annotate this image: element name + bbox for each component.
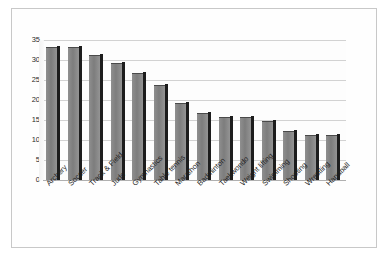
y-tick-label-30: 30: [18, 56, 40, 64]
y-axis: 05101520253035: [10, 0, 40, 262]
bar-soccer: [68, 47, 79, 180]
bar-side-face: [122, 62, 125, 180]
y-tick-label-0: 0: [18, 176, 40, 184]
bar-track-field: [89, 55, 100, 180]
bar-side-face: [79, 46, 82, 180]
bar-slot: [324, 40, 346, 180]
x-axis-labels: ArcherySoccerTrack & FieldJudoGymnastics…: [44, 182, 354, 252]
y-tick-label-15: 15: [18, 116, 40, 124]
bar-slot: [130, 40, 152, 180]
y-tick-label-35: 35: [18, 36, 40, 44]
bar-archery: [46, 47, 57, 180]
y-tick-label-5: 5: [18, 156, 40, 164]
bar-side-face: [57, 46, 60, 180]
bar-slot: [44, 40, 66, 180]
bar-gymnastics: [132, 73, 143, 180]
y-tick-label-20: 20: [18, 96, 40, 104]
bar-side-face: [100, 54, 103, 180]
bar-slot: [66, 40, 88, 180]
chart-canvas: 05101520253035 ArcherySoccerTrack & Fiel…: [0, 0, 392, 262]
bar-slot: [195, 40, 217, 180]
bar-slot: [303, 40, 325, 180]
y-tick-label-25: 25: [18, 76, 40, 84]
y-tick-label-10: 10: [18, 136, 40, 144]
bar-slot: [87, 40, 109, 180]
